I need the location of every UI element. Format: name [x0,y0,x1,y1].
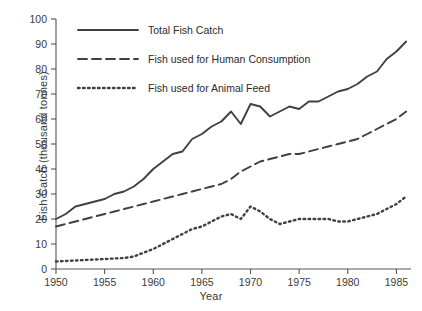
y-axis-title: Fish Catch (thousand tonnes) [37,31,49,261]
chart-legend: Total Fish CatchFish used for Human Cons… [78,24,310,94]
y-tick-label: 100 [29,13,47,25]
x-tick-label: 1975 [287,276,311,288]
x-tick-label: 1960 [142,276,166,288]
legend-label-1: Fish used for Human Consumption [148,53,310,65]
x-axis-ticks: 19501955196019651970197519801985 [44,269,408,288]
series-line-1 [56,112,406,227]
fish-catch-line-chart: 0102030405060708090100 19501955196019651… [0,0,422,311]
x-axis-title: Year [0,290,422,302]
x-tick-label: 1980 [336,276,360,288]
y-tick-label: 0 [41,263,47,275]
x-tick-label: 1950 [44,276,68,288]
legend-label-2: Fish used for Animal Feed [148,82,270,94]
series-line-2 [56,197,406,262]
x-tick-label: 1965 [190,276,214,288]
x-tick-label: 1985 [385,276,409,288]
x-tick-label: 1970 [239,276,263,288]
legend-label-0: Total Fish Catch [148,24,223,36]
data-series-group [56,42,406,262]
x-tick-label: 1955 [93,276,117,288]
series-line-0 [56,42,406,220]
chart-plot-area: 0102030405060708090100 19501955196019651… [0,0,422,311]
